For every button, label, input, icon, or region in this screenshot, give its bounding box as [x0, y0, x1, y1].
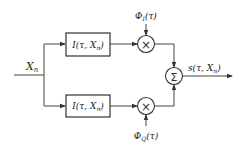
input-wire [14, 44, 65, 106]
sum-icon: Σ [171, 71, 178, 84]
lower-branch: I(τ, Xn) × ΦQ(τ) [66, 85, 174, 142]
upper-block-label: I(τ, Xn) [71, 40, 104, 51]
multiply-icon: × [141, 38, 151, 52]
carrier-label-q: ΦQ(τ) [134, 131, 159, 142]
multiply-icon: × [141, 100, 151, 114]
lower-block-label: I(τ, Xn) [71, 101, 104, 112]
block-diagram: Xn I(τ, Xn) × ΦI(τ) I(τ, Xn) × ΦQ(τ) Σ s… [0, 0, 239, 152]
input-label: Xn [25, 60, 39, 74]
output-label: s(τ, Xn) [188, 63, 221, 74]
upper-branch: I(τ, Xn) × ΦI(τ) [66, 11, 174, 67]
carrier-label-i: ΦI(τ) [135, 11, 157, 22]
